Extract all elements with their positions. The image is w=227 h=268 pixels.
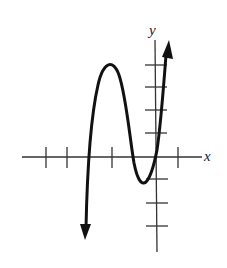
graph-canvas: y x	[0, 0, 227, 268]
arrow-down-icon	[80, 224, 91, 240]
y-axis-label: y	[147, 22, 156, 38]
arrow-up-icon	[162, 40, 173, 59]
cubic-curve	[86, 55, 166, 228]
x-axis-label: x	[203, 148, 211, 164]
